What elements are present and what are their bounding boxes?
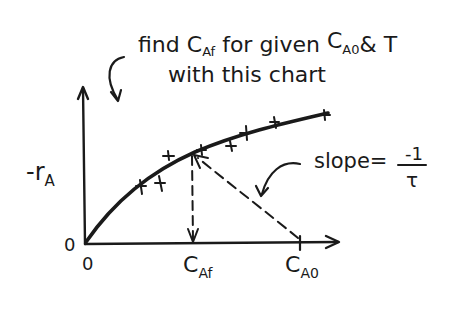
slope-label-denominator: τ (406, 168, 418, 192)
rate-curve (86, 113, 328, 242)
data-point-marker (226, 141, 236, 151)
diagram-canvas: find CAf for given CA0& T with this char… (0, 0, 464, 312)
data-point-marker (155, 176, 165, 191)
data-points (136, 110, 330, 194)
y-axis (78, 87, 88, 244)
x-axis (85, 236, 339, 250)
origin-y-label: 0 (64, 234, 75, 255)
y-axis-label-text: -rA (26, 158, 56, 190)
origin-x-label: 0 (82, 253, 93, 274)
annotation-arrow-icon (109, 57, 124, 101)
y-axis-label: -rA (26, 158, 56, 190)
slope-label-numerator: -1 (405, 143, 423, 164)
annotation-line2: with this chart (168, 62, 326, 87)
slope-label-prefix: slope= (314, 149, 387, 173)
caf-projection-line (188, 156, 198, 242)
slope-arrow-icon (256, 163, 300, 196)
operating-line (194, 155, 298, 238)
x-label-ca0: CA0 (285, 252, 319, 281)
data-point-marker (163, 151, 174, 160)
x-label-caf: CAf (183, 252, 213, 281)
annotation-line1: find CAf for given CA0& T (138, 28, 398, 59)
annotation-text: find CAf for given CA0& T with this char… (138, 28, 398, 87)
slope-label: slope= -1 τ (314, 143, 426, 192)
data-point-marker (240, 126, 250, 140)
